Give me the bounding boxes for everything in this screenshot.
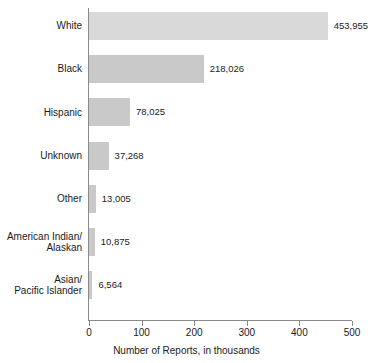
bar: [89, 55, 204, 83]
x-tick-0: [89, 321, 90, 326]
x-tick-100: [142, 321, 143, 326]
category-label: Unknown: [0, 150, 82, 162]
plot-area: 0100200300400500 Number of Reports, in t…: [0, 0, 373, 363]
bar-value-label: 10,875: [101, 236, 130, 247]
bar: [89, 12, 328, 40]
x-axis-title: Number of Reports, in thousands: [0, 345, 373, 356]
bar: [89, 185, 96, 213]
bar-chart: 0100200300400500 Number of Reports, in t…: [0, 0, 373, 363]
category-label: Asian/ Pacific Islander: [0, 274, 82, 297]
category-label: Hispanic: [0, 107, 82, 119]
x-tick-400: [299, 321, 300, 326]
x-tick-label-0: 0: [86, 327, 92, 338]
bar-row: White453,955: [0, 12, 373, 40]
x-tick-label-300: 300: [238, 327, 255, 338]
bar-row: Unknown37,268: [0, 142, 373, 170]
bar-value-label: 37,268: [115, 150, 144, 161]
bar: [89, 98, 130, 126]
x-axis-line: [88, 320, 352, 321]
bar: [89, 142, 109, 170]
bar-value-label: 453,955: [334, 20, 368, 31]
x-tick-label-500: 500: [344, 327, 361, 338]
x-tick-label-100: 100: [133, 327, 150, 338]
bar-row: Black218,026: [0, 55, 373, 83]
bar-row: Asian/ Pacific Islander6,564: [0, 271, 373, 299]
bar-value-label: 78,025: [136, 106, 165, 117]
bar-value-label: 6,564: [98, 279, 122, 290]
bar: [89, 271, 92, 299]
bar-value-label: 13,005: [102, 193, 131, 204]
x-tick-200: [194, 321, 195, 326]
x-tick-label-200: 200: [186, 327, 203, 338]
category-label: Other: [0, 193, 82, 205]
category-label: White: [0, 20, 82, 32]
bar-row: Hispanic78,025: [0, 98, 373, 126]
x-tick-label-400: 400: [291, 327, 308, 338]
x-tick-500: [352, 321, 353, 326]
category-label: American Indian/ Alaskan: [0, 231, 82, 254]
bar-value-label: 218,026: [210, 63, 244, 74]
x-tick-300: [247, 321, 248, 326]
bar-row: American Indian/ Alaskan10,875: [0, 228, 373, 256]
bar: [89, 228, 95, 256]
category-label: Black: [0, 63, 82, 75]
bar-row: Other13,005: [0, 185, 373, 213]
